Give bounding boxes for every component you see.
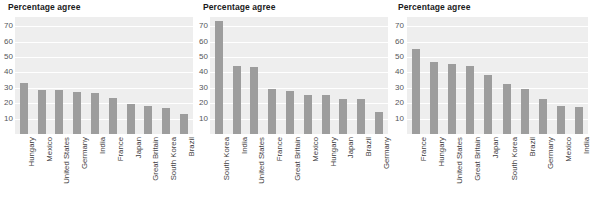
bar — [484, 75, 492, 134]
bar-slot — [210, 17, 228, 134]
x-axis-labels: South KoreaIndiaUnited StatesFranceGreat… — [210, 137, 388, 199]
chart-panel-group: Percentage agree 70605040302010 HungaryM… — [0, 0, 590, 199]
x-label-slot: India — [570, 137, 588, 199]
y-axis-tick-label: 70 — [195, 22, 208, 30]
x-label-slot: France — [104, 137, 122, 199]
x-label-slot: Brazil — [175, 137, 193, 199]
x-label-slot: Brazil — [516, 137, 534, 199]
bar — [91, 93, 99, 134]
x-label-slot: Mexico — [33, 137, 51, 199]
y-axis-tick-label: 10 — [390, 115, 404, 123]
plot-area: 70605040302010 — [390, 17, 590, 134]
bar — [233, 66, 241, 134]
y-axis-tick-label: 20 — [390, 99, 404, 107]
x-label-slot: Great Britain — [281, 137, 299, 199]
x-label-slot: Mexico — [299, 137, 317, 199]
bar — [503, 84, 511, 134]
x-label-slot: France — [263, 137, 281, 199]
bar — [322, 95, 330, 134]
bar-slot — [68, 17, 86, 134]
bar — [20, 83, 28, 134]
bar-slot — [443, 17, 461, 134]
x-label-slot: France — [407, 137, 425, 199]
bar — [557, 106, 565, 134]
x-label-slot: Great Britain — [140, 137, 158, 199]
bar-slot — [370, 17, 388, 134]
x-axis-category-label: India — [583, 137, 590, 154]
x-axis-labels: HungaryMexicoUnited StatesGermanyIndiaFr… — [15, 137, 193, 199]
x-label-slot: Germany — [370, 137, 388, 199]
bar-slot — [407, 17, 425, 134]
y-axis-tick-label: 40 — [0, 68, 13, 76]
bar-slot — [552, 17, 570, 134]
bar-slot — [246, 17, 264, 134]
bar — [412, 49, 420, 134]
bar — [215, 21, 223, 134]
x-label-slot: United States — [443, 137, 461, 199]
bar-slot — [534, 17, 552, 134]
bar-slot — [33, 17, 51, 134]
plot-area: 70605040302010 — [0, 17, 195, 134]
bar — [127, 104, 135, 134]
bar — [250, 67, 258, 134]
y-axis-tick-label: 50 — [0, 53, 13, 61]
bar — [55, 90, 63, 134]
x-label-slot: Hungary — [425, 137, 443, 199]
y-axis-tick-label: 60 — [0, 38, 13, 46]
bar — [73, 92, 81, 134]
bar-slot — [122, 17, 140, 134]
bar-slot — [497, 17, 515, 134]
bar — [180, 114, 188, 134]
bar-series — [407, 17, 588, 134]
chart-title: Percentage agree — [8, 2, 80, 12]
y-axis-tick-label: 10 — [195, 115, 208, 123]
bar-series — [15, 17, 193, 134]
bar-slot — [51, 17, 69, 134]
bar — [38, 90, 46, 134]
bar-slot — [317, 17, 335, 134]
bar — [286, 91, 294, 134]
bar — [339, 99, 347, 134]
bar-slot — [175, 17, 193, 134]
x-label-slot: South Korea — [497, 137, 515, 199]
x-label-slot: Germany — [68, 137, 86, 199]
y-axis-tick-label: 30 — [195, 84, 208, 92]
y-axis-tick-label: 60 — [390, 38, 404, 46]
x-label-slot: South Korea — [157, 137, 175, 199]
y-axis-tick-label: 30 — [390, 84, 404, 92]
x-label-slot: Japan — [122, 137, 140, 199]
bar — [144, 106, 152, 134]
x-label-slot: Mexico — [552, 137, 570, 199]
x-label-slot: Hungary — [317, 137, 335, 199]
x-label-slot: India — [86, 137, 104, 199]
y-axis-tick-label: 50 — [195, 53, 208, 61]
bar — [109, 98, 117, 134]
x-label-slot: Germany — [534, 137, 552, 199]
bar-slot — [479, 17, 497, 134]
y-axis-tick-label: 40 — [195, 68, 208, 76]
x-label-slot: Brazil — [352, 137, 370, 199]
y-axis-tick-label: 60 — [195, 38, 208, 46]
bar — [575, 107, 583, 134]
bar-slot — [461, 17, 479, 134]
bar — [375, 112, 383, 134]
x-label-slot: Hungary — [15, 137, 33, 199]
chart-panel-1: Percentage agree 70605040302010 HungaryM… — [0, 0, 195, 199]
x-label-slot: India — [228, 137, 246, 199]
chart-panel-3: Percentage agree 70605040302010 FranceHu… — [390, 0, 590, 199]
y-axis-tick-label: 10 — [0, 115, 13, 123]
bar — [268, 89, 276, 134]
y-axis-tick-label: 50 — [390, 53, 404, 61]
x-label-slot: South Korea — [210, 137, 228, 199]
bar — [521, 89, 529, 134]
x-label-slot: United States — [51, 137, 69, 199]
y-axis-tick-label: 30 — [0, 84, 13, 92]
bar-slot — [86, 17, 104, 134]
bar-slot — [352, 17, 370, 134]
x-axis-labels: FranceHungaryUnited StatesGreat BritainJ… — [407, 137, 588, 199]
bar — [430, 62, 438, 134]
bar-slot — [263, 17, 281, 134]
bar — [448, 64, 456, 134]
bar-series — [210, 17, 388, 134]
chart-title: Percentage agree — [203, 2, 275, 12]
